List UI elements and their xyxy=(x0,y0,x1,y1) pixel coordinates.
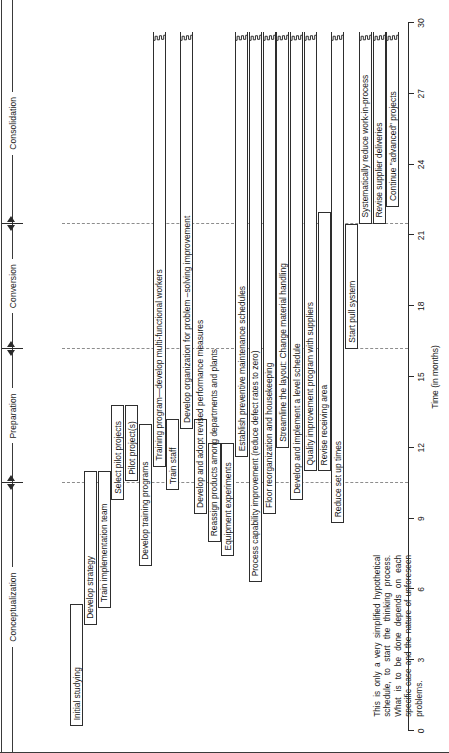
bar-torn-edge-icon xyxy=(276,31,289,44)
phase-label-consolidation: Consolidation xyxy=(4,23,21,224)
gantt-bar-label: Develop training programs xyxy=(141,462,149,560)
gantt-bar-label: Pilot project(s) xyxy=(127,421,135,475)
gantt-bar-label: Train staff xyxy=(169,448,177,485)
gantt-bar-label: Revise receiving area xyxy=(320,385,328,466)
gantt-bar[interactable]: Systematically reduce work-in-process xyxy=(359,32,372,223)
phase-label-text: Preparation xyxy=(8,388,18,443)
gantt-bar[interactable]: Quality improvement program with supplie… xyxy=(304,32,317,471)
gantt-bar-label: Start pull system xyxy=(347,281,355,343)
time-axis-tick xyxy=(408,518,414,519)
phase-arrow-left-icon xyxy=(7,225,15,231)
phase-arrow-left-icon xyxy=(7,350,15,356)
gantt-bar[interactable]: Floor reorganization and housekeeping xyxy=(263,32,276,513)
gantt-bar[interactable]: Reduce set up times xyxy=(331,32,344,523)
gantt-bar[interactable]: Develop and adopt revised performance me… xyxy=(194,420,207,514)
bar-torn-edge-icon xyxy=(153,31,166,44)
gantt-bar[interactable]: Pilot project(s) xyxy=(125,405,138,481)
time-axis-tick xyxy=(408,730,414,731)
phase-divider-1 xyxy=(2,348,23,349)
gantt-bar[interactable]: Reassign products among departments and … xyxy=(208,443,221,542)
gantt-bar[interactable]: Training program—develop multi-functiona… xyxy=(153,32,166,466)
gantt-bar[interactable]: Revise receiving area xyxy=(318,212,331,472)
time-axis-tick-label: 12 xyxy=(416,443,426,452)
gantt-bar-label: Equipment experiments xyxy=(224,462,232,550)
time-axis-title: Time (in months) xyxy=(430,345,440,408)
time-axis-tick-label: 18 xyxy=(416,301,426,310)
time-axis-tick xyxy=(408,164,414,165)
phase-divider-0 xyxy=(2,482,23,483)
time-axis-tick-label: 15 xyxy=(416,372,426,381)
bar-torn-edge-icon xyxy=(249,31,262,44)
bar-torn-edge-icon xyxy=(331,31,344,44)
gantt-bar-label: Quality improvement program with supplie… xyxy=(306,302,314,465)
gantt-bar[interactable]: Develop and implement a level schedule xyxy=(290,32,303,499)
gantt-bar[interactable]: Establish preventive maintenance schedul… xyxy=(235,32,248,457)
gantt-bar[interactable]: Train implementation team xyxy=(98,471,111,608)
bar-torn-edge-icon xyxy=(373,31,386,44)
phase-outer-rule xyxy=(1,0,2,753)
gantt-bar[interactable]: Develop training programs xyxy=(139,424,152,566)
bar-torn-edge-icon xyxy=(290,31,303,44)
bar-torn-edge-icon xyxy=(386,31,399,44)
phase-label-preparation: Preparation xyxy=(4,349,21,484)
gantt-bar-label: Process capability improvement (reduce d… xyxy=(251,351,259,577)
gantt-bar-label: Systematically reduce work-in-process xyxy=(361,75,369,218)
time-axis: 036912151821242730 Time (in months) xyxy=(408,0,449,753)
gantt-bar-label: Streamline the layout: Change material h… xyxy=(279,263,287,442)
time-axis-tick-label: 3 xyxy=(416,658,426,663)
gantt-bar-label: Training program—develop multi-functiona… xyxy=(155,269,163,460)
gantt-bar[interactable]: Initial studying xyxy=(70,604,83,727)
gantt-bar[interactable]: Select pilot projects xyxy=(111,405,124,499)
bar-torn-edge-icon xyxy=(180,31,193,44)
time-axis-tick-label: 21 xyxy=(416,231,426,240)
phase-rail: ConceptualizationPreparationConversionCo… xyxy=(0,0,62,753)
time-axis-tick-label: 30 xyxy=(416,18,426,27)
time-axis-tick-label: 27 xyxy=(416,89,426,98)
gantt-bar[interactable]: Streamline the layout: Change material h… xyxy=(276,32,289,447)
time-axis-tick xyxy=(408,376,414,377)
gantt-bar-label: Develop organization for problem –solvin… xyxy=(182,216,190,423)
gantt-bar-label: Train implementation team xyxy=(100,503,108,602)
gantt-bar-label: Floor reorganization and housekeeping xyxy=(265,363,273,508)
phase-label-conceptualization: Conceptualization xyxy=(4,483,21,731)
time-axis-tick-label: 9 xyxy=(416,516,426,521)
gantt-bar-label: Select pilot projects xyxy=(114,421,122,494)
time-axis-line xyxy=(408,23,409,731)
phase-label-conversion: Conversion xyxy=(4,224,21,349)
gantt-bar[interactable]: Revise supplier deliveries xyxy=(373,32,386,223)
gantt-bar[interactable]: Develop organization for problem –solvin… xyxy=(180,32,193,428)
phase-arrow-right-icon xyxy=(7,475,15,481)
phase-divider-2 xyxy=(2,223,23,224)
time-axis-tick-label: 6 xyxy=(416,587,426,592)
gantt-bar[interactable]: Process capability improvement (reduce d… xyxy=(249,32,262,582)
phase-label-text: Conversion xyxy=(8,259,18,313)
gantt-bar-label: Develop strategy xyxy=(86,556,94,619)
time-axis-tick-label: 24 xyxy=(416,160,426,169)
gantt-bar-label: Reduce set up times xyxy=(334,441,342,517)
gantt-bar[interactable]: Start pull system xyxy=(345,224,358,349)
phase-arrow-left-icon xyxy=(7,484,15,490)
gantt-bar[interactable]: Develop strategy xyxy=(84,471,97,624)
phase-arrow-right-icon xyxy=(7,216,15,222)
time-axis-tick xyxy=(408,659,414,660)
time-axis-tick xyxy=(408,588,414,589)
time-axis-tick xyxy=(408,234,414,235)
bar-torn-edge-icon xyxy=(359,31,372,44)
gantt-bar-label: Establish preventive maintenance schedul… xyxy=(237,286,245,451)
gantt-bar-label: Develop and implement a level schedule xyxy=(292,343,300,493)
time-axis-tick xyxy=(408,22,414,23)
time-axis-tick-label: 0 xyxy=(416,729,426,734)
phase-label-text: Consolidation xyxy=(8,92,18,155)
gantt-bar-label: Continue "advanced" projects xyxy=(389,91,397,201)
bar-torn-edge-icon xyxy=(304,31,317,44)
gantt-bar[interactable]: Continue "advanced" projects xyxy=(386,32,399,207)
time-axis-tick xyxy=(408,93,414,94)
gantt-bar-label: Reassign products among departments and … xyxy=(210,349,218,536)
time-axis-tick xyxy=(408,447,414,448)
gantt-bar[interactable]: Equipment experiments xyxy=(221,443,234,556)
gantt-bar[interactable]: Train staff xyxy=(166,419,179,490)
bar-torn-edge-icon xyxy=(263,31,276,44)
phase-label-text: Conceptualization xyxy=(8,567,18,646)
gantt-bar-label: Develop and adopt revised performance me… xyxy=(196,320,204,508)
phase-arrow-right-icon xyxy=(7,341,15,347)
